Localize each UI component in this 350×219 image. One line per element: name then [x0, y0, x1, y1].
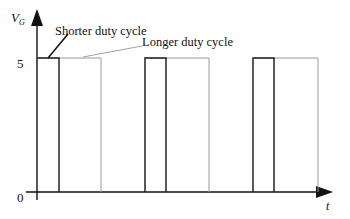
shorter-duty-cycle-pulses: [37, 58, 274, 192]
x-axis-label: t: [326, 199, 330, 213]
y-tick-0: 0: [17, 190, 24, 205]
longer-duty-cycle-pulses: [37, 58, 318, 192]
duty-cycle-diagram: VG 5 0 t Shorter duty cycle Longer duty …: [0, 0, 350, 219]
y-axis-label: VG: [11, 10, 25, 27]
shorter-duty-cycle-label: Shorter duty cycle: [55, 24, 147, 38]
y-axis-arrow-icon: [31, 9, 43, 26]
y-tick-5: 5: [17, 56, 24, 71]
x-axis-arrow-icon: [316, 186, 333, 198]
longer-duty-cycle-label: Longer duty cycle: [142, 35, 233, 49]
longer-leader-line: [83, 46, 142, 57]
